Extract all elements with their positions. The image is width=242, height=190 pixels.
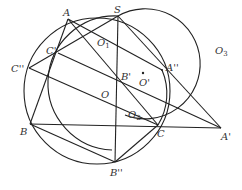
label-O1: O1 bbox=[97, 37, 110, 50]
point-A2-dot bbox=[161, 69, 163, 71]
label-O-prime: O' bbox=[139, 77, 150, 88]
label-A-prime: A' bbox=[220, 131, 231, 142]
label-B-prime: B' bbox=[120, 71, 131, 82]
label-C-double-prime: C'' bbox=[11, 63, 24, 74]
line-B-A1 bbox=[30, 124, 221, 128]
line-B-B2 bbox=[30, 124, 115, 162]
diagram-canvas: A S C' C'' B B' B'' C A' A'' O O' O1 O2 … bbox=[0, 0, 242, 190]
line-B2-C bbox=[115, 125, 158, 162]
label-C: C bbox=[157, 128, 165, 139]
circle-O3-arc bbox=[118, 9, 200, 119]
label-S: S bbox=[114, 4, 121, 15]
point-O-prime-dot bbox=[142, 72, 144, 74]
geometry-diagram: A S C' C'' B B' B'' C A' A'' O O' O1 O2 … bbox=[0, 0, 242, 190]
label-C-prime: C' bbox=[46, 45, 56, 56]
line-S-B2 bbox=[115, 16, 118, 162]
label-B-double-prime: B'' bbox=[109, 167, 123, 178]
label-O3: O3 bbox=[215, 45, 228, 58]
label-B: B bbox=[19, 126, 27, 137]
label-A: A bbox=[62, 7, 70, 18]
line-A-A2 bbox=[68, 19, 162, 70]
label-A-double-prime: A'' bbox=[165, 62, 179, 73]
label-O2: O2 bbox=[128, 109, 141, 122]
label-O: O bbox=[101, 89, 109, 100]
